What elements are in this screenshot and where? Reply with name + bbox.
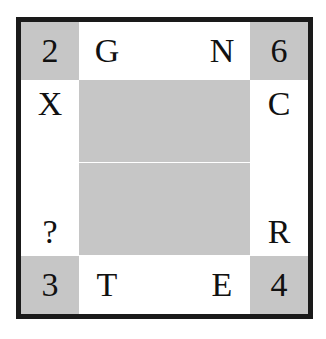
corner-value-bottom-right: 4 xyxy=(250,256,308,314)
shaded-interior-lower xyxy=(79,163,250,255)
puzzle-frame: 2 6 3 4 G N X ? C R T E xyxy=(16,17,313,319)
edge-letter-top-right: N xyxy=(198,22,246,80)
edge-letter-right-upper: C xyxy=(250,80,308,128)
edge-letter-left-lower-unknown: ? xyxy=(21,208,79,256)
shaded-interior-upper xyxy=(79,80,250,162)
edge-letter-left-upper: X xyxy=(21,80,79,128)
puzzle-board: 2 6 3 4 G N X ? C R T E xyxy=(21,22,308,314)
corner-value-top-right: 6 xyxy=(250,22,308,80)
corner-value-bottom-left: 3 xyxy=(21,256,79,314)
corner-value-top-left: 2 xyxy=(21,22,79,80)
edge-letter-right-lower: R xyxy=(250,208,308,256)
edge-letter-bottom-right: E xyxy=(198,256,246,314)
edge-letter-top-left: G xyxy=(83,22,131,80)
edge-letter-bottom-left: T xyxy=(83,256,131,314)
